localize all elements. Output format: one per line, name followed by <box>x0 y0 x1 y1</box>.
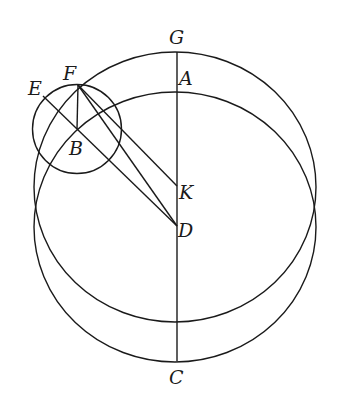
label-k: K <box>178 181 195 203</box>
label-f: F <box>62 62 77 84</box>
label-g: G <box>169 26 184 48</box>
label-b: B <box>68 137 83 159</box>
line-f-b <box>77 85 78 129</box>
line-e-d <box>43 96 177 226</box>
label-e: E <box>27 77 42 99</box>
label-c: C <box>169 366 184 388</box>
line-f-d <box>78 85 177 226</box>
label-a: A <box>177 67 193 89</box>
geometric-diagram: G A F E B K D C <box>0 0 340 411</box>
label-d: D <box>177 219 193 241</box>
